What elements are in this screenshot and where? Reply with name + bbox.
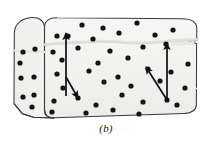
- molecule-dot: [174, 102, 179, 107]
- molecule-dot: [31, 92, 36, 97]
- molecule-dot: [54, 71, 59, 76]
- molecule-dot: [32, 46, 37, 51]
- molecule-dot: [157, 78, 162, 83]
- molecule-dot: [107, 48, 112, 53]
- molecule-dot: [29, 104, 34, 109]
- molecule-dot: [140, 44, 145, 49]
- molecule-dot: [101, 79, 106, 84]
- molecule-dot: [140, 99, 145, 104]
- molecule-dot: [136, 111, 141, 116]
- molecule-dot: [125, 55, 130, 60]
- molecule-dot: [75, 45, 80, 50]
- figure-caption: (b): [0, 121, 212, 135]
- molecule-dot: [128, 83, 133, 88]
- molecule-dot: [90, 36, 95, 41]
- molecule-dot: [31, 74, 36, 79]
- molecule-dot: [17, 60, 22, 65]
- molecule-dot: [152, 32, 157, 37]
- molecule-dot: [115, 74, 120, 79]
- molecule-dot: [95, 60, 100, 65]
- molecule-dot: [168, 69, 173, 74]
- molecule-dot: [93, 102, 98, 107]
- molecule-dot: [18, 75, 23, 80]
- molecule-dot: [60, 85, 65, 90]
- molecule-dot: [20, 49, 25, 54]
- molecule-dot: [79, 22, 84, 27]
- molecule-dot: [51, 98, 56, 103]
- figure-container: (b): [0, 0, 212, 144]
- box-body: [14, 18, 197, 118]
- molecule-dot: [182, 85, 187, 90]
- molecule-dot: [49, 109, 54, 114]
- molecule-dot: [54, 33, 59, 38]
- molecule-dot: [86, 68, 91, 73]
- molecule-dot: [110, 107, 115, 112]
- molecule-dot: [116, 30, 121, 35]
- molecule-dot: [134, 20, 139, 25]
- molecule-dot: [20, 94, 25, 99]
- molecule-dot: [83, 110, 88, 115]
- molecule-dot: [185, 61, 190, 66]
- molecule-dot: [100, 25, 105, 30]
- molecule-dot: [59, 57, 64, 62]
- molecule-dot: [170, 27, 175, 32]
- molecule-dot: [119, 92, 124, 97]
- molecule-dot: [50, 49, 55, 54]
